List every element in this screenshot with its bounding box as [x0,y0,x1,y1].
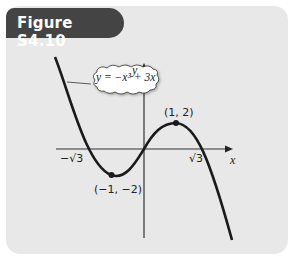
min-point-label: (−1, −2) [94,183,142,196]
graph [0,0,291,260]
max-point-marker [173,120,179,126]
equation-label: y = −x³ + 3x [96,71,155,83]
callout-pointer [67,82,91,84]
min-point-marker [109,172,115,178]
max-point-label: (1, 2) [164,106,194,119]
x-axis-arrow-icon [225,146,233,153]
neg-root-label: −√3 [60,152,83,165]
x-axis-label: x [230,153,235,168]
pos-root-label: √3 [189,152,203,165]
y-axis-label: y [132,63,137,78]
